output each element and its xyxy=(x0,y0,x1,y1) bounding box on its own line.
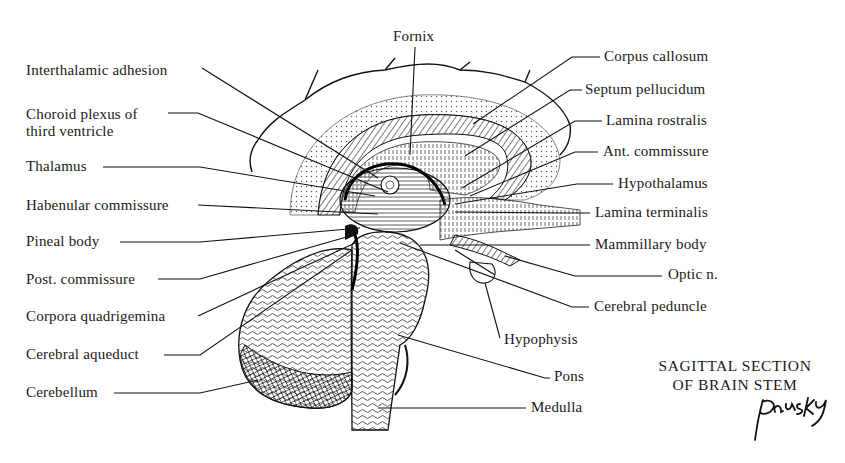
signature: Pansky xyxy=(0,0,845,463)
brain-stem-diagram: Interthalamic adhesion Choroid plexus of… xyxy=(0,0,845,463)
